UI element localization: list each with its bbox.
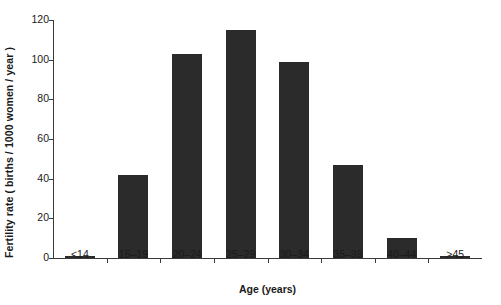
fertility-rate-bar-chart: Fertility rate ( births / 1000 women / y… xyxy=(0,0,501,305)
y-tick-label: 60 xyxy=(37,132,49,145)
y-tick-label: 80 xyxy=(37,92,49,105)
x-category-label: <14 xyxy=(53,248,107,261)
bar xyxy=(279,62,309,258)
bar xyxy=(118,175,148,258)
y-tick-label: 0 xyxy=(43,251,49,264)
x-category-label: >45 xyxy=(428,248,482,261)
y-axis-title: Fertility rate ( births / 1000 women / y… xyxy=(0,0,18,305)
bar xyxy=(226,30,256,258)
y-tick-label: 120 xyxy=(31,13,49,26)
y-tick-mark xyxy=(49,60,53,61)
x-category-label: 35–39 xyxy=(321,248,375,261)
x-category-label: 15–19 xyxy=(107,248,161,261)
y-tick-mark xyxy=(49,179,53,180)
plot-area: 020406080100120 xyxy=(53,20,482,258)
y-tick-label: 20 xyxy=(37,211,49,224)
y-tick-mark xyxy=(49,99,53,100)
y-tick-mark xyxy=(49,218,53,219)
y-tick-mark xyxy=(49,20,53,21)
x-category-label: 40–44 xyxy=(375,248,429,261)
x-category-label: 25–29 xyxy=(214,248,268,261)
bar xyxy=(333,165,363,258)
y-tick-label: 40 xyxy=(37,172,49,185)
x-axis-title: Age (years) xyxy=(53,283,482,295)
x-category-label: 20–24 xyxy=(160,248,214,261)
y-tick-mark xyxy=(49,139,53,140)
x-category-label: 30–34 xyxy=(268,248,322,261)
y-axis-line xyxy=(53,20,54,259)
y-tick-label: 100 xyxy=(31,53,49,66)
bar xyxy=(172,54,202,258)
